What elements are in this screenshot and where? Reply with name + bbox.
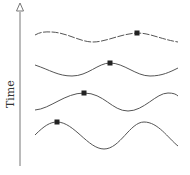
wave-4-marker-square-icon — [55, 120, 60, 125]
wave-3-marker-square-icon — [82, 91, 87, 96]
wave-1-marker-square-icon — [135, 31, 140, 36]
wave-1-curve — [35, 32, 178, 42]
wave-4-curve — [35, 122, 178, 149]
wave-2-marker-square-icon — [108, 61, 113, 66]
time-axis-label: Time — [4, 84, 24, 108]
time-axis-label-text: Time — [4, 80, 17, 108]
time-axis-arrowhead-icon — [17, 3, 24, 11]
wave-2-curve — [35, 63, 178, 76]
time-wave-diagram — [0, 0, 190, 175]
wave-3-curve — [35, 93, 178, 111]
